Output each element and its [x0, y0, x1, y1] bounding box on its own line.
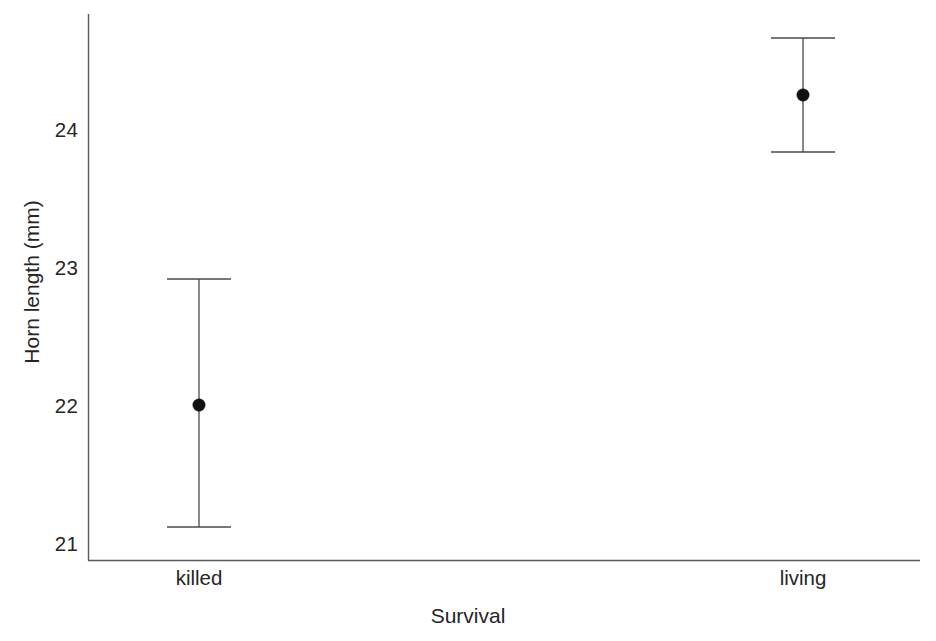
x-axis-title: Survival	[0, 604, 936, 628]
errorbar-living	[771, 38, 835, 152]
plot-canvas	[0, 0, 936, 641]
data-point-living	[797, 89, 809, 101]
y-tick-label-21: 21	[20, 532, 78, 556]
data-point-killed	[193, 399, 205, 411]
x-tick-label-living: living	[723, 566, 883, 590]
chart-figure: 24 23 22 21 killed living Survival Horn …	[0, 0, 936, 641]
errorbar-killed	[167, 279, 231, 527]
y-axis-title: Horn length (mm)	[20, 182, 44, 382]
y-tick-label-24: 24	[20, 118, 78, 142]
y-tick-label-22: 22	[20, 394, 78, 418]
x-tick-label-killed: killed	[119, 566, 279, 590]
